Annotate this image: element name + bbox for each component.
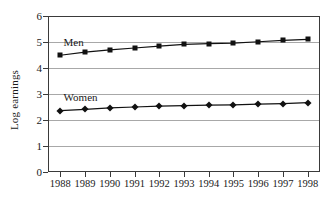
series-line-women [60,103,307,111]
chart-figure: Log earnings 0123456 1988198919901991199… [0,0,335,199]
series-lines [0,0,335,199]
series-line-men [60,39,307,55]
